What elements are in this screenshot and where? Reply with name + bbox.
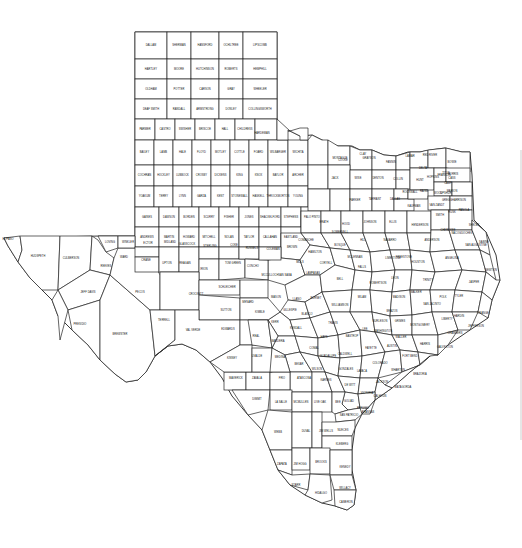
county-label: SABINE — [479, 240, 489, 244]
county-label: RUSK — [448, 210, 456, 214]
county-label: GONZALES — [339, 367, 354, 371]
county-label: HOOD — [342, 222, 350, 226]
county-label: ARCHER — [292, 173, 303, 177]
county-label: POLK — [439, 295, 446, 299]
county-label: UPTON — [162, 261, 171, 265]
county-label: DIMMIT — [252, 397, 262, 401]
county-label: RANDALL — [173, 107, 186, 111]
county-label: FRIO — [279, 376, 285, 380]
county-label: FANNIN — [386, 160, 396, 164]
county-label: WHEELER — [253, 87, 266, 91]
county-label: KAUFMAN — [407, 204, 420, 208]
county-label: MIDLAND — [164, 240, 176, 244]
county-label: BRISCOE — [199, 127, 211, 131]
county-label: YOAKUM — [139, 194, 151, 198]
county-label: LEON — [391, 276, 398, 280]
county-label: CRANE — [141, 258, 151, 262]
county-label: TERRY — [159, 194, 168, 198]
county-label: ATASCOSA — [297, 376, 311, 380]
county-label: FAYETTE — [365, 346, 377, 350]
county-label: LUBBOCK — [176, 173, 189, 177]
county-label: WARD — [120, 255, 128, 259]
county-label: BOSQUE — [334, 243, 346, 247]
county-label: SHELBY — [469, 223, 480, 227]
county-label: FLOYD — [197, 150, 206, 154]
county-label: DALLAM — [146, 43, 157, 47]
county-label: KENT — [217, 194, 224, 198]
county-label: WINKLER — [122, 240, 134, 244]
county-label: ARANSAS — [362, 410, 375, 414]
county-label: SAN PATRICIO — [340, 413, 359, 417]
county-label: SHACKELFORD — [260, 215, 280, 219]
county-label: TARRANT — [369, 197, 382, 201]
county-label: CALLAHAN — [263, 235, 277, 239]
county-label: SAN JACINTO — [423, 302, 441, 306]
county-label: EDWARDS — [221, 327, 235, 331]
county-label: FORT BEND — [402, 354, 417, 358]
county-label: HARTLEY — [145, 67, 157, 71]
county-label: SMITH — [436, 213, 444, 217]
county-label: HOUSTON — [411, 260, 424, 264]
county-label: COLEMAN — [266, 247, 279, 251]
county-label: PECOS — [135, 290, 145, 294]
county-label: ERATH — [320, 220, 329, 224]
county-label: KENDALL — [290, 326, 303, 330]
county-label: HARRIS — [420, 342, 430, 346]
county-label: VAL VERDE — [186, 328, 201, 332]
county-label: BEXAR — [294, 362, 303, 366]
county-label: MEDINA — [275, 355, 286, 359]
county-label: COKE — [230, 243, 238, 247]
county-label: TYLER — [455, 294, 464, 298]
county-label: GARZA — [197, 194, 206, 198]
county-label: CROSBY — [196, 173, 207, 177]
county-label: COCHRAN — [138, 173, 152, 177]
county-label: IRION — [200, 267, 208, 271]
county-label: BREWSTER — [112, 332, 127, 336]
county-label: BELL — [337, 277, 344, 281]
county-label: BRAZORIA — [413, 372, 427, 376]
county-label: CASTRO — [159, 127, 170, 131]
county-label: WALLER — [396, 335, 407, 339]
county-label: MONTGOMERY — [410, 323, 430, 327]
county-label: WICHITA — [292, 150, 303, 154]
county-label: BLANCO — [302, 312, 313, 316]
county-label: LAMAR — [405, 154, 414, 158]
county-label: PARMER — [139, 127, 150, 131]
county-label: CULBERSON — [63, 256, 80, 260]
county-label: HIDALGO — [315, 491, 327, 495]
county-label: FOARD — [254, 150, 263, 154]
county-label: CLAY — [360, 152, 367, 156]
county-label: ROCKWALL — [403, 190, 418, 194]
county-label: LAMB — [160, 150, 167, 154]
county-label: MORRIS — [448, 172, 459, 176]
county-label: MATAGORDA — [395, 385, 412, 389]
county-label: TERRELL — [158, 318, 171, 322]
county-label: CORYELL — [320, 261, 333, 265]
county-label: BURLESON — [373, 319, 388, 323]
county-label: SUTTON — [221, 308, 232, 312]
county-label: REFUGIO — [357, 406, 369, 410]
county-label: HAYS — [320, 335, 327, 339]
county-label: BAYLOR — [273, 173, 284, 177]
county-label: DENTON — [372, 176, 383, 180]
county-label: REEVES — [101, 264, 112, 268]
county-label: HENDERSON — [411, 223, 428, 227]
county-label: CAMP — [444, 181, 452, 185]
county-label: BANDERA — [272, 339, 285, 343]
county-label: MADISON — [393, 295, 406, 299]
county-label: ZAPATA — [277, 462, 287, 466]
county-label: THROCKMORTON — [267, 194, 290, 198]
county-label: LA SALLE — [275, 400, 287, 404]
county-label: HEMPHILL — [253, 67, 267, 71]
county-label: TAYLOR — [244, 235, 254, 239]
county-label: YOUNG — [293, 194, 303, 198]
county-label: KNOX — [255, 173, 263, 177]
county-label: MENARD — [242, 300, 254, 304]
county-label: FISHER — [224, 215, 234, 219]
county-label: SWISHER — [179, 127, 192, 131]
county-label: EASTLAND — [284, 235, 298, 239]
county-label: KERR — [271, 320, 278, 324]
county-label: JIM HOGG — [293, 462, 306, 466]
county-label: GUADALUPE — [320, 354, 337, 358]
county-label: NACOGDOCHES — [451, 231, 472, 235]
